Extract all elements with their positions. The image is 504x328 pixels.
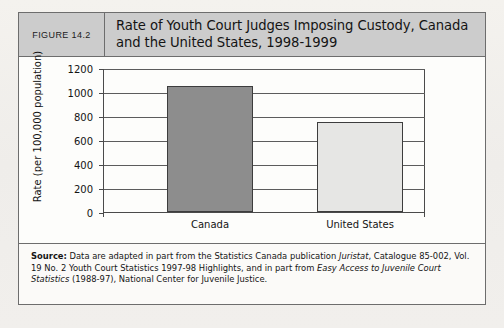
bar-canada[interactable] — [167, 86, 253, 212]
plot-area: 1200 1000 800 600 400 200 — [103, 69, 425, 213]
ytick-label-800: 800 — [74, 112, 93, 123]
source-note: Source: Data are adapted in part from th… — [19, 243, 485, 304]
source-publication-juristat: Juristat — [339, 251, 369, 261]
ytick-600 — [99, 141, 104, 142]
ytick-1200 — [99, 69, 104, 70]
chart-area: Rate (per 100,000 population) 1200 1000 … — [19, 57, 485, 243]
chart-canvas: Rate (per 100,000 population) 1200 1000 … — [19, 57, 485, 243]
gridline-800 — [103, 117, 425, 118]
source-text-part3: (1988-97), National Center for Juvenile … — [69, 274, 267, 284]
figure-header: FIGURE 14.2 Rate of Youth Court Judges I… — [19, 13, 485, 57]
category-label-canada: Canada — [191, 219, 229, 230]
figure-container: FIGURE 14.2 Rate of Youth Court Judges I… — [18, 12, 486, 305]
xtick-left — [103, 212, 104, 217]
ytick-400 — [99, 165, 104, 166]
figure-title: Rate of Youth Court Judges Imposing Cust… — [105, 13, 485, 56]
ytick-label-200: 200 — [74, 184, 93, 195]
ytick-1000 — [99, 93, 104, 94]
ytick-label-0: 0 — [87, 208, 93, 219]
ytick-800 — [99, 117, 104, 118]
figure-page: FIGURE 14.2 Rate of Youth Court Judges I… — [0, 0, 504, 328]
x-axis-line — [103, 212, 425, 213]
gridline-1000 — [103, 93, 425, 94]
gridline-1200 — [103, 69, 425, 70]
bar-united-states[interactable] — [317, 122, 403, 212]
ytick-label-400: 400 — [74, 160, 93, 171]
ytick-label-1000: 1000 — [68, 88, 93, 99]
ytick-label-600: 600 — [74, 136, 93, 147]
source-text-part1: Data are adapted in part from the Statis… — [67, 251, 339, 261]
ytick-200 — [99, 189, 104, 190]
source-label: Source: — [31, 251, 67, 261]
ytick-label-1200: 1200 — [68, 64, 93, 75]
xtick-right — [424, 212, 425, 217]
category-label-united-states: United States — [326, 219, 394, 230]
y-axis-title: Rate (per 100,000 population) — [32, 47, 43, 207]
